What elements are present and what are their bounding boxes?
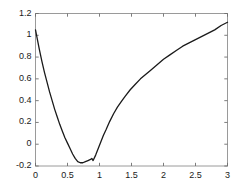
x-tick-label: 3 [208,171,241,180]
y-tick-label: 0.8 [19,52,32,61]
axes-box [36,14,228,167]
y-tick-label: 0 [26,139,31,148]
y-tick-label: 1.2 [19,9,32,18]
y-tick-label: 0.6 [19,74,32,83]
figure-container: -0.200.20.40.60.811.2 00.511.522.53 [0,0,240,191]
plot-canvas [0,0,240,191]
y-tick-label: -0.2 [16,161,32,170]
y-tick-label: 1 [26,30,31,39]
y-tick-label: 0.4 [19,96,32,105]
axes-frame [36,14,228,167]
y-tick-label: 0.2 [19,117,32,126]
